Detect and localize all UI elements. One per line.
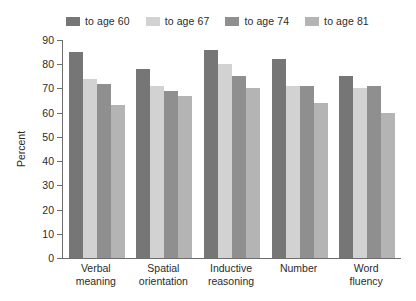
y-axis-tick-label: 30 bbox=[42, 179, 54, 191]
x-axis-tick-label: Number bbox=[280, 262, 317, 275]
x-axis-tick-label-line: fluency bbox=[350, 275, 383, 288]
y-axis-title: Percent bbox=[14, 40, 28, 258]
bar[interactable] bbox=[367, 86, 381, 258]
x-axis-tick-label-line: Number bbox=[280, 262, 317, 275]
bars-layer bbox=[63, 40, 401, 258]
y-axis-tick-label: 40 bbox=[42, 155, 54, 167]
bar[interactable] bbox=[178, 96, 192, 258]
legend-item[interactable]: to age 67 bbox=[146, 15, 210, 27]
bar[interactable] bbox=[353, 88, 367, 258]
plot-area: 0102030405060708090 bbox=[62, 40, 401, 259]
bar[interactable] bbox=[164, 91, 178, 258]
x-axis-tick-label-line: reasoning bbox=[208, 275, 254, 288]
x-axis-tick-label: Spatialorientation bbox=[139, 262, 188, 287]
x-axis-labels: VerbalmeaningSpatialorientationInductive… bbox=[62, 262, 400, 298]
bar[interactable] bbox=[150, 86, 164, 258]
x-axis-tick-label: Inductivereasoning bbox=[208, 262, 254, 287]
y-axis-tick-label: 10 bbox=[42, 228, 54, 240]
bar[interactable] bbox=[204, 50, 218, 258]
bar[interactable] bbox=[314, 103, 328, 258]
bar[interactable] bbox=[69, 52, 83, 258]
bar-group bbox=[204, 40, 260, 258]
bar-chart: to age 60to age 67to age 74to age 81 Per… bbox=[0, 0, 416, 301]
bar[interactable] bbox=[300, 86, 314, 258]
legend-swatch-icon bbox=[146, 17, 160, 26]
x-axis-tick-label: Wordfluency bbox=[350, 262, 383, 287]
legend-item[interactable]: to age 74 bbox=[225, 15, 289, 27]
bar[interactable] bbox=[339, 76, 353, 258]
y-axis-tick bbox=[57, 258, 63, 259]
x-axis-tick-label-line: orientation bbox=[139, 275, 188, 288]
bar[interactable] bbox=[83, 79, 97, 258]
legend-item[interactable]: to age 81 bbox=[305, 15, 369, 27]
legend-item-label: to age 67 bbox=[165, 15, 210, 27]
y-axis-tick-label: 0 bbox=[48, 252, 54, 264]
bar[interactable] bbox=[111, 105, 125, 258]
x-axis-tick-label-line: Verbal bbox=[76, 262, 116, 275]
legend-item[interactable]: to age 60 bbox=[66, 15, 130, 27]
legend-item-label: to age 81 bbox=[324, 15, 369, 27]
x-axis-tick-label-line: Inductive bbox=[208, 262, 254, 275]
y-axis-tick-label: 80 bbox=[42, 58, 54, 70]
bar[interactable] bbox=[232, 76, 246, 258]
legend-swatch-icon bbox=[305, 17, 319, 26]
x-axis-tick-label-line: Spatial bbox=[139, 262, 188, 275]
legend-swatch-icon bbox=[225, 17, 239, 26]
bar[interactable] bbox=[97, 84, 111, 258]
bar-group bbox=[69, 40, 125, 258]
bar-group bbox=[339, 40, 395, 258]
bar-group bbox=[272, 40, 328, 258]
bar[interactable] bbox=[381, 113, 395, 258]
legend-item-label: to age 74 bbox=[244, 15, 289, 27]
legend-swatch-icon bbox=[66, 17, 80, 26]
y-axis-tick-label: 70 bbox=[42, 82, 54, 94]
legend-item-label: to age 60 bbox=[85, 15, 130, 27]
y-axis-title-label: Percent bbox=[15, 131, 27, 167]
y-axis-tick-label: 90 bbox=[42, 34, 54, 46]
y-axis-tick-label: 60 bbox=[42, 107, 54, 119]
x-axis-tick-label-line: Word bbox=[350, 262, 383, 275]
bar[interactable] bbox=[136, 69, 150, 258]
y-axis-tick-label: 20 bbox=[42, 204, 54, 216]
y-axis-tick-label: 50 bbox=[42, 131, 54, 143]
x-axis-tick-label: Verbalmeaning bbox=[76, 262, 116, 287]
bar[interactable] bbox=[272, 59, 286, 258]
bar-group bbox=[136, 40, 192, 258]
bar[interactable] bbox=[246, 88, 260, 258]
bar[interactable] bbox=[286, 86, 300, 258]
x-axis-tick-label-line: meaning bbox=[76, 275, 116, 288]
chart-legend: to age 60to age 67to age 74to age 81 bbox=[66, 13, 406, 29]
bar[interactable] bbox=[218, 64, 232, 258]
